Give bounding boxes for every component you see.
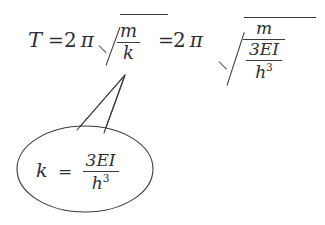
callout-numerator-3EI: 3EI [83,152,119,171]
callout-fraction-3EI-over-h-cubed: 3EI h3 [83,152,119,192]
figure-canvas: T = 2π m k = 2π m 3EI h3 [0,0,325,225]
callout-h-base-symbol: h [92,173,103,193]
stiffness-symbol-k: k [36,159,48,181]
callout-equation: k = 3EI h3 [36,152,119,192]
callout-equals-sign: = [58,161,72,181]
callout-h-exponent: 3 [103,172,110,184]
callout-denominator-h-cubed: h3 [83,171,119,193]
